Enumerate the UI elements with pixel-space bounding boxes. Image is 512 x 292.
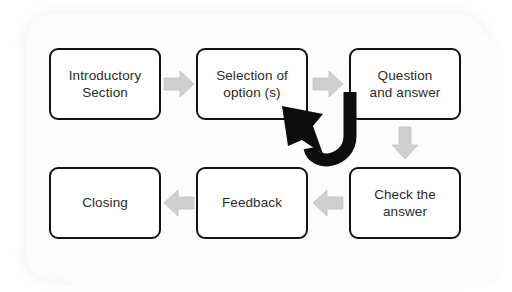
arrow-right-icon-intro-to-selection: [162, 68, 196, 100]
feedback-loop-arrow-icon: [266, 92, 376, 178]
arrow-left-icon-feedback-to-closing: [162, 187, 196, 219]
flowchart-diagram: Introductory Section Selection of option…: [0, 0, 512, 292]
arrow-left-icon-check-to-feedback: [311, 187, 345, 219]
arrow-down-icon-question-to-check: [389, 125, 421, 161]
node-closing[interactable]: Closing: [49, 167, 161, 239]
node-introductory-section[interactable]: Introductory Section: [49, 48, 161, 120]
